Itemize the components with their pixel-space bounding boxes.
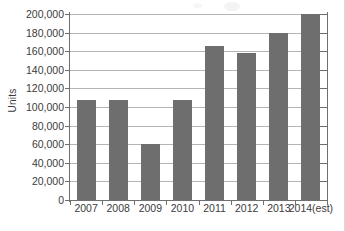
bar	[173, 100, 192, 200]
scan-artifact-speck	[193, 3, 202, 8]
plot-area	[70, 14, 327, 200]
y-axis-tick-label: 0	[4, 195, 64, 206]
x-axis-tick-label: 2014(est)	[281, 203, 341, 214]
y-axis-tick-label: 120,000	[4, 83, 64, 94]
bar-chart: Units 200,000180,000160,000140,000120,00…	[0, 0, 345, 231]
y-axis-tick-label: 140,000	[4, 65, 64, 76]
y-axis-tick-label: 40,000	[4, 158, 64, 169]
right-axis-tick	[319, 200, 327, 201]
y-axis-tick-label: 200,000	[4, 9, 64, 20]
y-axis-tick-label: 100,000	[4, 102, 64, 113]
bar	[269, 33, 288, 200]
right-axis-line	[327, 12, 328, 202]
bar-series	[70, 14, 327, 200]
y-axis-tick-label: 180,000	[4, 28, 64, 39]
bar	[77, 100, 96, 200]
bar	[301, 14, 320, 200]
bar	[237, 53, 256, 200]
y-axis-tick-label: 20,000	[4, 176, 64, 187]
y-axis-tick-label: 80,000	[4, 121, 64, 132]
scan-artifact-smudge	[224, 2, 240, 11]
bar	[205, 46, 224, 200]
y-axis-tick-label: 60,000	[4, 139, 64, 150]
bar	[109, 100, 128, 200]
bar	[141, 144, 160, 200]
y-axis-tick-label: 160,000	[4, 46, 64, 57]
